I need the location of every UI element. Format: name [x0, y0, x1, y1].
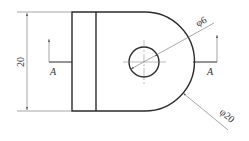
part-outline: [72, 12, 195, 111]
section-marker-right: A: [193, 35, 217, 77]
arc-diameter-label: φ20: [218, 106, 237, 125]
arc-diameter-dimension: φ20: [183, 93, 237, 130]
section-label-left: A: [49, 66, 57, 77]
technical-drawing: 20 φ6 φ20 A A: [0, 0, 249, 141]
hole-diameter-dimension: φ6: [131, 14, 214, 69]
height-dimension-label: 20: [15, 57, 26, 67]
hole: [123, 40, 166, 84]
section-marker-left: A: [49, 39, 72, 77]
section-label-right: A: [206, 66, 214, 77]
hole-diameter-label: φ6: [194, 14, 209, 29]
